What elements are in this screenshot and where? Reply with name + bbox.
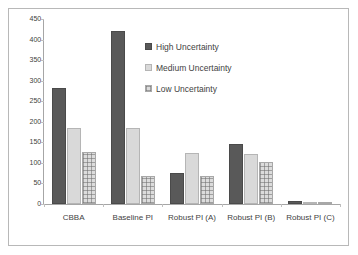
x-axis-tick-mark	[44, 204, 45, 207]
legend-item[interactable]: Medium Uncertainty	[145, 57, 275, 78]
bar[interactable]	[111, 31, 125, 204]
y-axis-tick-label: 400	[15, 36, 41, 43]
bar[interactable]	[288, 201, 302, 204]
x-axis-tick-mark	[340, 204, 341, 207]
bar[interactable]	[200, 176, 214, 204]
x-axis-tick-mark	[222, 204, 223, 207]
x-axis-category-label: Baseline PI	[103, 209, 162, 229]
bar[interactable]	[318, 202, 332, 204]
x-axis-tick-mark	[162, 204, 163, 207]
x-axis-line	[43, 204, 340, 205]
y-axis-tick-label: 0	[15, 200, 41, 207]
bar-group	[281, 19, 340, 204]
bar[interactable]	[67, 128, 81, 204]
bar[interactable]	[303, 202, 317, 204]
legend-swatch-icon	[145, 43, 152, 50]
legend-label: Low Uncertainty	[156, 84, 217, 94]
bar[interactable]	[141, 176, 155, 204]
x-axis-category-label: CBBA	[44, 209, 103, 229]
bar[interactable]	[82, 152, 96, 204]
x-axis-category-label: Robust PI (B)	[222, 209, 281, 229]
y-axis-tick-label: 200	[15, 118, 41, 125]
x-axis-tick-mark	[103, 204, 104, 207]
y-axis-tick-label: 100	[15, 159, 41, 166]
y-axis-tick-label: 150	[15, 138, 41, 145]
legend-label: Medium Uncertainty	[156, 63, 232, 73]
x-axis-category-label: Robust PI (A)	[162, 209, 221, 229]
legend-swatch-icon	[145, 85, 152, 92]
y-axis-tick-label: 450	[15, 15, 41, 22]
bar[interactable]	[259, 162, 273, 204]
bar[interactable]	[244, 154, 258, 204]
x-axis-category-label: Robust PI (C)	[281, 209, 340, 229]
bar-group	[44, 19, 103, 204]
legend-item[interactable]: High Uncertainty	[145, 36, 275, 57]
chart-frame: 050100150200250300350400450 CBBABaseline…	[8, 8, 349, 246]
legend-label: High Uncertainty	[156, 42, 219, 52]
bar[interactable]	[52, 88, 66, 204]
legend-swatch-icon	[145, 64, 152, 71]
bar[interactable]	[126, 128, 140, 204]
y-axis-tick-label: 300	[15, 77, 41, 84]
y-axis-tick-label: 250	[15, 97, 41, 104]
y-axis-tick-label: 50	[15, 179, 41, 186]
chart-legend: High UncertaintyMedium UncertaintyLow Un…	[145, 36, 275, 99]
x-axis-tick-mark	[281, 204, 282, 207]
legend-item[interactable]: Low Uncertainty	[145, 78, 275, 99]
y-axis-tick-labels: 050100150200250300350400450	[9, 9, 41, 215]
bar[interactable]	[170, 173, 184, 204]
bar[interactable]	[229, 144, 243, 204]
bar[interactable]	[185, 153, 199, 204]
x-axis-category-labels: CBBABaseline PIRobust PI (A)Robust PI (B…	[44, 209, 340, 229]
y-axis-tick-label: 350	[15, 56, 41, 63]
